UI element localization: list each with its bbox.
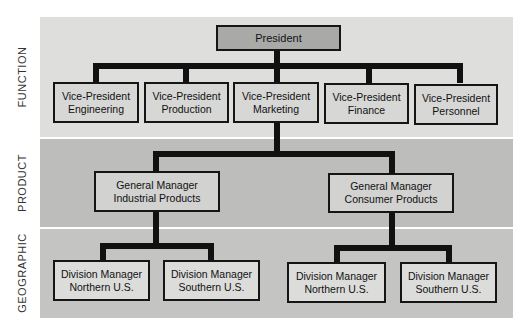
vp-title: Vice-President [242,90,310,103]
vp-engineering-box: Vice-President Engineering [53,82,139,123]
division-industrial-southern-box: Division Manager Southern U.S. [163,260,260,301]
connector [153,151,395,157]
vp-title: Vice-President [422,92,490,105]
gm-area: Consumer Products [345,193,438,206]
division-area: Northern U.S. [304,283,368,296]
connector [208,243,214,261]
division-title: Division Manager [296,270,377,283]
connector [457,63,463,83]
division-area: Southern U.S. [416,283,482,296]
vp-area: Personnel [432,105,479,118]
gm-area: Industrial Products [114,192,201,205]
president-box: President [216,25,341,51]
division-area: Southern U.S. [179,281,245,294]
division-title: Division Manager [171,268,252,281]
vp-production-box: Vice-President Production [144,82,229,123]
vp-area: Finance [348,104,385,117]
vp-finance-box: Vice-President Finance [324,83,409,124]
vp-title: Vice-President [332,91,400,104]
connector [334,245,452,251]
division-title: Division Manager [61,268,142,281]
gm-industrial-box: General Manager Industrial Products [94,171,220,212]
gm-title: General Manager [116,179,198,192]
gm-title: General Manager [350,180,432,193]
division-consumer-northern-box: Division Manager Northern U.S. [287,262,386,303]
connector [100,243,214,249]
connector [100,243,106,261]
vp-title: Vice-President [62,90,130,103]
connector [274,63,280,83]
vp-area: Production [161,103,211,116]
president-title: President [255,32,301,45]
division-consumer-southern-box: Division Manager Southern U.S. [400,262,497,303]
vp-marketing-box: Vice-President Marketing [233,82,319,123]
product-label: PRODUCT [16,154,28,212]
division-industrial-northern-box: Division Manager Northern U.S. [53,260,150,301]
connector [153,151,159,172]
connector [389,151,395,174]
connector [93,63,99,83]
connector [446,245,452,263]
connector [366,63,372,83]
connector [334,245,340,263]
vp-personnel-box: Vice-President Personnel [414,84,498,125]
gm-consumer-box: General Manager Consumer Products [328,173,454,213]
division-area: Northern U.S. [69,281,133,294]
vp-area: Marketing [253,103,299,116]
connector [183,63,189,83]
function-label: FUNCTION [16,47,28,108]
vp-area: Engineering [68,103,124,116]
division-title: Division Manager [408,270,489,283]
geographic-label: GEOGRAPHIC [16,233,28,313]
vp-title: Vice-President [152,90,220,103]
